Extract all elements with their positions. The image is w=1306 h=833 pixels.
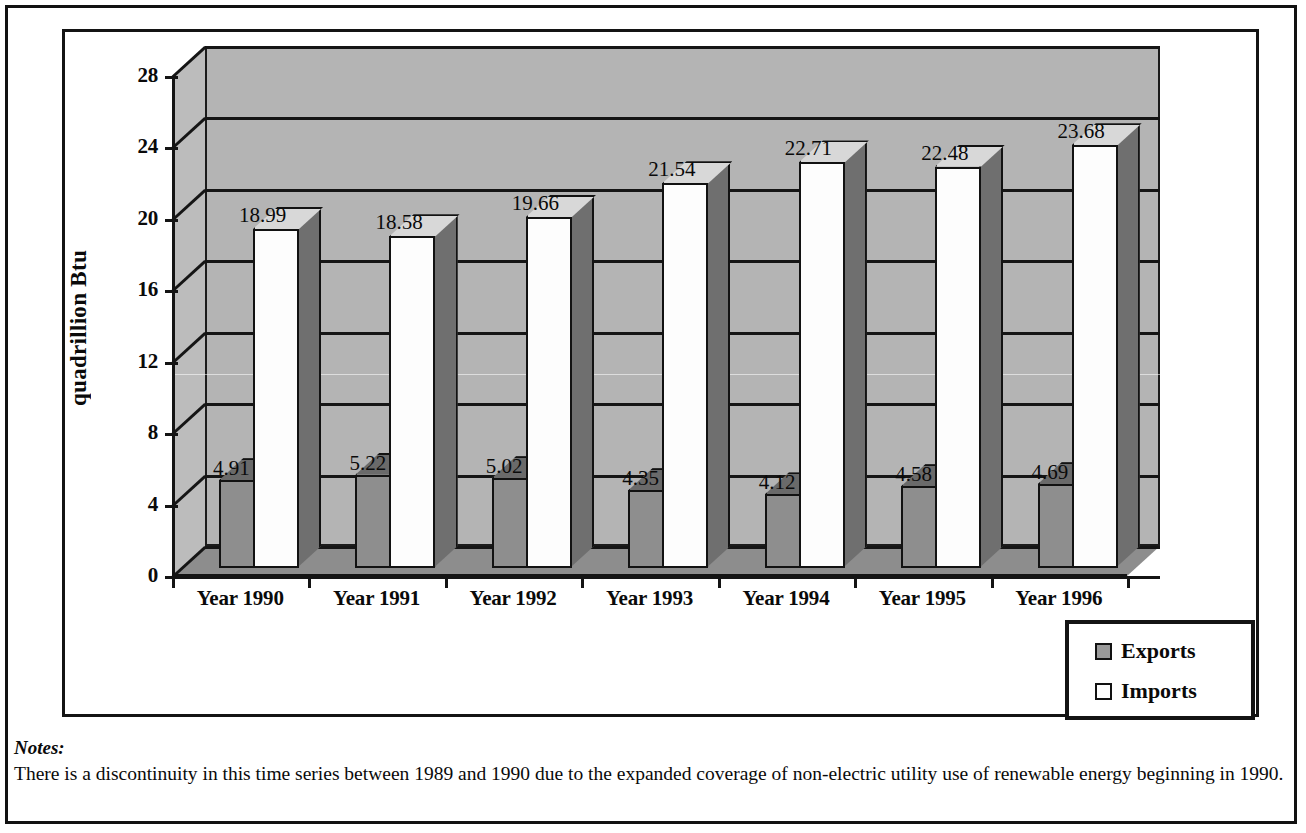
bar-imports — [1072, 145, 1118, 568]
imports-swatch-icon — [1095, 683, 1112, 700]
bar-imports-side-face — [843, 140, 867, 568]
legend-item-imports[interactable]: Imports — [1095, 680, 1197, 702]
bar-imports-front-face — [253, 229, 299, 568]
data-label-imports: 22.48 — [921, 143, 968, 164]
bar-imports-front-face — [1072, 145, 1118, 568]
bar-imports — [935, 167, 981, 568]
data-label-exports: 4.69 — [1032, 462, 1069, 483]
bar-imports-front-face — [389, 236, 435, 568]
x-axis-label: Year 1992 — [445, 586, 581, 611]
data-label-imports: 22.71 — [785, 138, 832, 159]
y-axis-title: quadrillion Btu — [66, 250, 106, 406]
bar-imports-front-face — [526, 217, 572, 568]
bar-imports — [253, 229, 299, 568]
gridline — [205, 46, 1160, 49]
notes-block: Notes: There is a discontinuity in this … — [14, 736, 1289, 786]
data-label-imports: 18.99 — [239, 205, 286, 226]
y-axis-tick-label: 12 — [92, 351, 158, 372]
bar-imports — [662, 183, 708, 568]
y-axis-tick-label: 8 — [92, 422, 158, 443]
y-axis-tick-label: 0 — [92, 565, 158, 586]
bar-imports-front-face — [935, 167, 981, 568]
notes-body: There is a discontinuity in this time se… — [14, 761, 1289, 786]
x-axis-label: Year 1990 — [172, 586, 308, 611]
y-axis-tick-label: 16 — [92, 279, 158, 300]
bar-imports-side-face — [979, 145, 1003, 568]
bar-imports-side-face — [570, 195, 594, 568]
data-label-exports: 4.91 — [213, 458, 250, 479]
data-label-imports: 19.66 — [512, 193, 559, 214]
data-label-imports: 21.54 — [648, 159, 695, 180]
data-label-exports: 4.35 — [622, 468, 659, 489]
bar-imports — [799, 162, 845, 568]
bar-imports-side-face — [706, 161, 730, 568]
data-label-exports: 4.58 — [895, 464, 932, 485]
plot-area — [172, 46, 1160, 576]
exports-swatch-icon — [1095, 643, 1112, 660]
bar-imports-side-face — [433, 214, 457, 568]
legend-label-exports: Exports — [1121, 640, 1196, 662]
chart-legend[interactable]: Exports Imports — [1065, 620, 1255, 720]
x-axis-label: Year 1994 — [718, 586, 854, 611]
bar-imports-side-face — [1116, 123, 1140, 568]
bar-imports — [389, 236, 435, 568]
bar-imports-front-face — [662, 183, 708, 568]
y-axis-tick-label: 24 — [92, 136, 158, 157]
bar-imports — [526, 217, 572, 568]
y-axis-tick-label: 28 — [92, 65, 158, 86]
y-axis-tick-label: 4 — [92, 494, 158, 515]
y-axis-line — [172, 76, 175, 579]
bar-imports-front-face — [799, 162, 845, 568]
x-axis-label: Year 1996 — [991, 586, 1127, 611]
notes-title: Notes: — [14, 736, 1289, 760]
bar-imports-side-face — [297, 207, 321, 568]
x-axis-label: Year 1991 — [308, 586, 444, 611]
legend-label-imports: Imports — [1121, 680, 1197, 702]
legend-item-exports[interactable]: Exports — [1095, 640, 1196, 662]
y-axis-tick-label: 20 — [92, 208, 158, 229]
x-axis-tick — [1127, 576, 1130, 588]
x-axis-label: Year 1993 — [581, 586, 717, 611]
x-axis-line — [172, 576, 1160, 579]
data-label-exports: 5.22 — [349, 453, 386, 474]
data-label-exports: 5.02 — [486, 456, 523, 477]
gridline — [205, 117, 1160, 120]
data-label-exports: 4.12 — [759, 472, 796, 493]
plot-side-wall — [172, 46, 205, 576]
data-label-imports: 18.58 — [375, 212, 422, 233]
x-axis-label: Year 1995 — [854, 586, 990, 611]
data-label-imports: 23.68 — [1058, 121, 1105, 142]
